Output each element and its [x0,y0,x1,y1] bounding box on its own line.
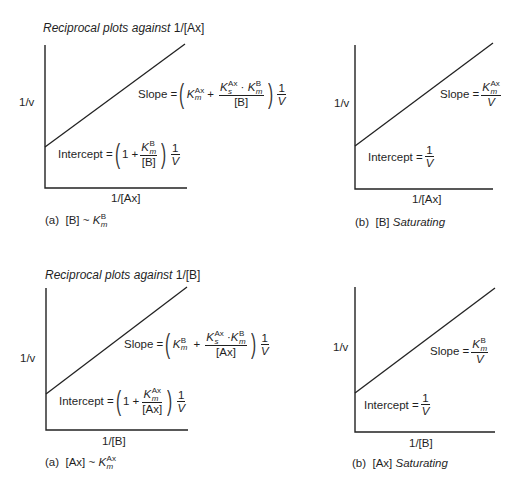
denominator: V [170,155,180,167]
right-paren: ) [251,330,256,358]
x-axis-label-bottom-left: 1/[B] [102,435,126,447]
k-symbol: K [93,214,101,226]
slope-word: Slope = [430,345,469,357]
title-variable: 1/[Ax] [174,21,205,35]
slope-formula-top-right: Slope = KAxm V [440,80,503,108]
caption-var: [Ax] [372,457,392,469]
denominator: V [475,353,485,365]
caption-top-right: (b) [B] Saturating [355,216,445,228]
intercept-formula-top-left: Intercept = ( 1 + KBm [B] ) 1V [58,140,182,168]
y-axis-label-top-left: 1/v [19,96,34,108]
y-axis-label-bottom-left: 1/v [20,352,35,364]
k-indices: Axm [152,387,161,402]
sub: m [239,338,246,346]
y-axis-label-top-right: 1/v [334,97,349,109]
left-paren: ( [165,330,170,358]
intercept-formula-bottom-left: Intercept = ( 1 + KAxm [Ax] ) 1V [59,387,188,415]
k-indices: Bm [239,330,246,345]
caption-letter: (a) [45,214,59,226]
sub: m [195,94,204,102]
denominator: V [421,405,431,417]
fraction: KAxm [Ax] [141,387,163,415]
plus: + [207,88,214,100]
fraction-one-over-v: 1V [425,144,435,169]
denominator: V [277,95,287,107]
caption-condition: Saturating [393,216,445,228]
k-indices: Bm [481,337,488,352]
slope-formula-top-left: Slope = ( KAxm + KAxs · KBm [B] ) 1V [138,80,289,108]
right-paren: ) [161,140,166,168]
numerator: 1 [421,392,429,405]
k-symbol: K [472,338,480,350]
caption-letter: (a) [45,456,59,468]
k-indices: Axs [228,80,237,95]
numerator: KBm [140,140,157,156]
k-indices: Axm [107,455,116,470]
one-plus: 1 + [122,148,138,160]
slope-formula-bottom-left: Slope = ( KBm + KAxs ·KBm [Ax] ) 1V [124,330,272,358]
title-prefix: Reciprocal plots against [43,21,174,35]
fraction-one-over-v: 1V [277,82,287,107]
sub: m [481,345,488,353]
fraction-one-over-v: 1V [421,392,431,417]
k-symbol: K [231,331,239,343]
left-paren: ( [179,80,184,108]
title-prefix: Reciprocal plots against [45,268,176,282]
denominator: [Ax] [215,346,237,358]
slope-formula-bottom-right: Slope = KBm V [430,337,490,365]
numerator: 1 [425,144,433,157]
fraction: KAxs ·KBm [Ax] [205,330,246,358]
numerator: KAxs · KBm [219,80,264,96]
fraction-one-over-v: 1V [260,332,270,357]
k-indices: Bm [256,80,263,95]
k-symbol: K [220,81,228,93]
x-axis-label-top-right: 1/[Ax] [412,193,441,205]
numerator: KAxs ·KBm [205,330,246,346]
group-title-top: Reciprocal plots against 1/[Ax] [43,21,204,35]
group-title-bottom: Reciprocal plots against 1/[B] [45,268,200,282]
intercept-formula-top-right: Intercept = 1V [368,144,436,169]
sub: m [107,463,116,471]
k-indices: Bm [149,140,156,155]
fraction: KBm V [471,337,488,365]
x-axis-label-top-left: 1/[Ax] [111,192,140,204]
caption-var: [B] [375,216,389,228]
denominator: V [176,402,186,414]
caption-letter: (b) [352,457,366,469]
caption-top-left: (a) [B] ~ KBm [45,213,107,228]
right-paren: ) [268,80,273,108]
intercept-word: Intercept = [59,395,114,407]
numerator: KAxm [142,387,162,403]
sub: m [256,88,263,96]
approx-symbol: ~ [83,214,90,226]
numerator: 1 [277,82,285,95]
numerator: 1 [261,332,269,345]
intercept-word: Intercept = [364,399,419,411]
sub: m [152,395,161,403]
sub: m [491,88,500,96]
k-indices: Axm [195,87,204,102]
numerator: KBm [471,337,488,353]
approx-symbol: ~ [88,456,95,468]
intercept-formula-bottom-right: Intercept = 1V [364,392,432,417]
slope-word: Slope = [138,88,177,100]
k-symbol: K [187,88,195,100]
k-symbol: K [173,338,181,350]
k-symbol: K [141,141,149,153]
intercept-word: Intercept = [368,151,423,163]
k-symbol: K [482,81,490,93]
k-indices: Bm [181,337,188,352]
slope-word: Slope = [124,338,163,350]
slope-word: Slope = [440,88,479,100]
y-axis-label-bottom-right: 1/v [333,341,348,353]
plus: + [194,338,201,350]
caption-bottom-left: (a) [Ax] ~ KAxm [45,455,116,470]
sub: m [149,148,156,156]
title-variable: 1/[B] [176,268,201,282]
k-indices: Axm [491,80,500,95]
intercept-word: Intercept = [58,148,113,160]
numerator: 1 [177,389,185,402]
left-paren: ( [115,140,120,168]
fraction-one-over-v: 1V [176,389,186,414]
right-paren: ) [167,387,172,415]
